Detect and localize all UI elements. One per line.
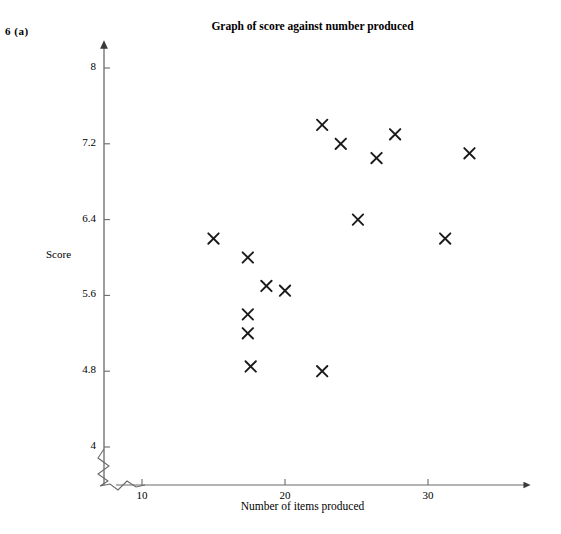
data-point-marker — [390, 129, 400, 139]
data-point-marker — [317, 120, 327, 130]
data-point-marker — [440, 233, 450, 243]
data-point-marker — [353, 214, 363, 224]
data-point-marker — [245, 361, 255, 371]
data-point-group — [208, 120, 474, 377]
x-tick-marks — [142, 479, 428, 485]
data-point-marker — [243, 309, 253, 319]
data-point-marker — [317, 366, 327, 376]
data-point-marker — [464, 148, 474, 158]
data-point-marker — [280, 285, 290, 295]
figure-container: 6 (a) Graph of score against number prod… — [0, 0, 561, 534]
data-point-marker — [208, 233, 218, 243]
axis-break-zigzag — [98, 449, 145, 490]
data-point-marker — [336, 139, 346, 149]
data-point-marker — [243, 328, 253, 338]
data-point-marker — [243, 252, 253, 262]
plot-canvas — [0, 0, 561, 534]
data-point-marker — [371, 153, 381, 163]
data-point-marker — [261, 281, 271, 291]
y-tick-marks — [104, 68, 110, 447]
